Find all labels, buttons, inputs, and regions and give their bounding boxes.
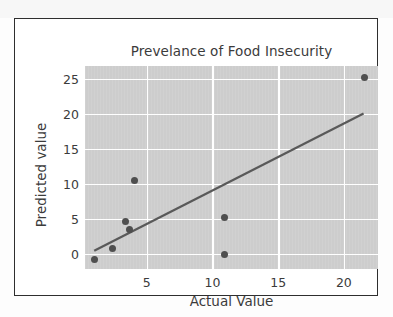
- data-point: [221, 214, 228, 221]
- figure-page: Prevelance of Food Insecurity 0510152025…: [0, 0, 393, 317]
- regression-line: [85, 66, 378, 269]
- chart-title: Prevelance of Food Insecurity: [85, 43, 378, 59]
- x-axis-tick-labels: 5101520: [85, 275, 378, 293]
- x-axis-label: Actual Value: [85, 293, 378, 309]
- y-tick-label-25: 25: [39, 71, 79, 86]
- x-tick-label-15: 15: [258, 275, 298, 290]
- x-tick-label-20: 20: [324, 275, 364, 290]
- plot-area: [85, 66, 378, 269]
- data-point: [109, 245, 116, 252]
- data-point: [91, 256, 98, 263]
- figure-frame: Prevelance of Food Insecurity 0510152025…: [14, 18, 378, 296]
- y-axis-label: Predicted value: [33, 100, 49, 250]
- x-tick-label-10: 10: [192, 275, 232, 290]
- page-margin: [0, 0, 393, 18]
- x-tick-label-5: 5: [127, 275, 167, 290]
- data-point: [221, 251, 228, 258]
